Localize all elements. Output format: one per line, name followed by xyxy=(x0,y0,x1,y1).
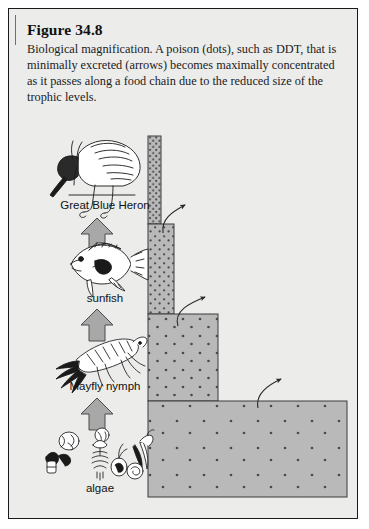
label-sunfish: sunfish xyxy=(87,292,123,304)
excretion-arrow-sunfish xyxy=(163,205,185,233)
excretion-arrow-mayfly xyxy=(177,297,205,326)
bar-algae xyxy=(148,401,347,497)
figure-panel: Figure 34.8 Biological magnification. A … xyxy=(8,8,358,519)
figure-caption: Biological magnification. A poison (dots… xyxy=(27,42,339,106)
label-great-blue-heron: Great Blue Heron xyxy=(60,199,150,211)
figure-title: Figure 34.8 xyxy=(27,21,339,39)
bar-mayfly-nymph xyxy=(148,314,218,401)
label-mayfly-nymph: Mayfly nymph xyxy=(70,380,141,392)
excretion-arrow-algae xyxy=(258,379,281,408)
algae-icon xyxy=(46,428,154,480)
mayfly-nymph-icon xyxy=(56,337,147,393)
excretion-arrows xyxy=(163,205,281,408)
sunfish-icon xyxy=(71,243,148,297)
label-algae: algae xyxy=(86,482,114,494)
left-rule-divider xyxy=(15,15,16,45)
block-arrow-sunfish-to-heron xyxy=(81,218,113,250)
poison-concentration-bars xyxy=(148,136,347,497)
block-arrow-algae-to-mayfly xyxy=(81,398,113,430)
trophic-transfer-arrows xyxy=(81,218,113,430)
bar-heron xyxy=(148,136,161,224)
figure-page: Figure 34.8 Biological magnification. A … xyxy=(0,0,369,529)
great-blue-heron-icon xyxy=(50,140,140,218)
bar-sunfish xyxy=(148,224,174,314)
block-arrow-mayfly-to-sunfish xyxy=(81,309,113,341)
caption-block: Figure 34.8 Biological magnification. A … xyxy=(27,21,339,106)
